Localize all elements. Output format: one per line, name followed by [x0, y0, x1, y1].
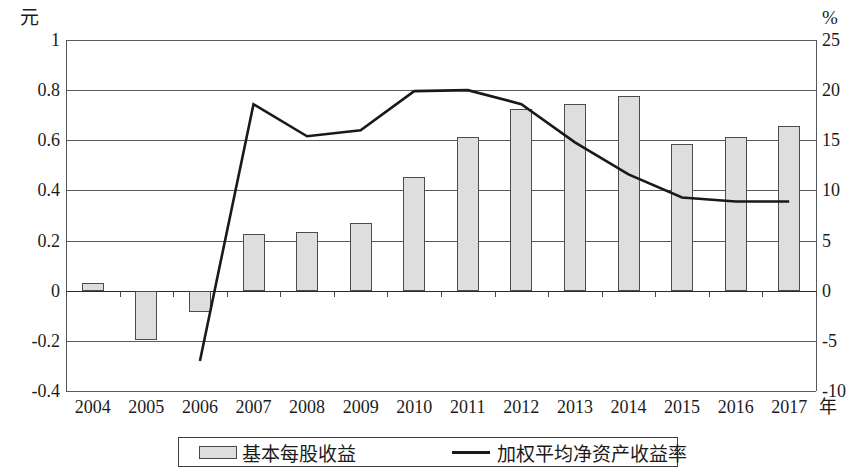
x-axis-label-2012: 2012: [503, 398, 539, 416]
x-axis-tick: [548, 291, 549, 297]
x-axis-label-2011: 2011: [450, 398, 485, 416]
legend-label-basic-eps: 基本每股收益: [242, 439, 356, 466]
gridline: [66, 391, 816, 392]
right-axis-tick: 5: [822, 232, 858, 250]
x-axis-tick: [709, 291, 710, 297]
bar-swatch-icon: [199, 446, 237, 459]
legend-item-basic-eps: 基本每股收益: [199, 439, 356, 466]
x-axis-name-label: 年: [819, 398, 837, 416]
x-axis-tick: [602, 291, 603, 297]
x-axis-label-2015: 2015: [664, 398, 700, 416]
plot-area: [66, 40, 816, 391]
x-axis-tick: [655, 291, 656, 297]
x-axis-label-2004: 2004: [75, 398, 111, 416]
x-axis-label-2007: 2007: [236, 398, 272, 416]
x-axis-label-2016: 2016: [718, 398, 754, 416]
x-axis-tick: [387, 291, 388, 297]
left-axis-tick: -0.2: [0, 332, 60, 350]
x-axis-tick: [816, 291, 817, 297]
right-axis-line: [816, 40, 817, 391]
x-axis-tick: [495, 291, 496, 297]
x-axis-label-2014: 2014: [611, 398, 647, 416]
x-axis-label-2005: 2005: [128, 398, 164, 416]
left-axis-tick: 0: [0, 282, 60, 300]
x-axis-tick: [334, 291, 335, 297]
left-axis-tick-labels: 10.80.60.40.20-0.2-0.4: [0, 0, 60, 467]
left-axis-tick: 0.2: [0, 232, 60, 250]
x-axis-tick: [280, 291, 281, 297]
left-axis-tick: 0.6: [0, 131, 60, 149]
x-axis-label-2017: 2017: [771, 398, 807, 416]
legend: 基本每股收益 加权平均净资产收益率: [178, 437, 678, 467]
x-axis-tick: [120, 291, 121, 297]
right-axis-tick: -5: [822, 332, 858, 350]
x-axis-labels: 2004200520062007200820092010201120122013…: [0, 398, 858, 426]
x-axis-label-2006: 2006: [182, 398, 218, 416]
left-axis-tick: 1: [0, 31, 60, 49]
x-axis-label-2009: 2009: [343, 398, 379, 416]
x-axis-label-2008: 2008: [289, 398, 325, 416]
left-axis-tick: 0.8: [0, 81, 60, 99]
chart-container: 元 % 10.80.60.40.20-0.2-0.4 2520151050-5-…: [0, 0, 858, 467]
right-axis-tick: 15: [822, 131, 858, 149]
legend-item-weighted-roe: 加权平均净资产收益率: [452, 439, 687, 466]
right-axis-tick: 25: [822, 31, 858, 49]
left-axis-tick: 0.4: [0, 181, 60, 199]
x-axis-tick: [762, 291, 763, 297]
x-axis-tick: [173, 291, 174, 297]
line-swatch-icon: [452, 451, 490, 454]
x-axis-tick: [66, 291, 67, 297]
right-axis-tick: 10: [822, 181, 858, 199]
right-axis-tick: 20: [822, 81, 858, 99]
x-axis-tick: [441, 291, 442, 297]
line-series-weighted-roe: [66, 40, 816, 391]
right-axis-tick: 0: [822, 282, 858, 300]
legend-label-weighted-roe: 加权平均净资产收益率: [497, 439, 687, 466]
x-axis-label-2013: 2013: [557, 398, 593, 416]
x-axis-label-2010: 2010: [396, 398, 432, 416]
x-axis-tick: [227, 291, 228, 297]
